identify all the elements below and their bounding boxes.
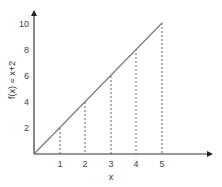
- y-tick-label: 2: [24, 123, 29, 133]
- x-tick-label: 5: [159, 159, 164, 169]
- x-tick-label: 3: [108, 159, 113, 169]
- y-tick-label: 4: [24, 97, 29, 107]
- y-axis-arrow-icon: [31, 10, 37, 16]
- drop-lines: [60, 23, 162, 154]
- x-tick-label: 2: [82, 159, 87, 169]
- y-tick-label: 6: [24, 71, 29, 81]
- x-tick-label: 4: [133, 159, 138, 169]
- x-tick-label: 1: [57, 159, 62, 169]
- function-line: [34, 23, 162, 154]
- x-axis-label: x: [109, 172, 114, 182]
- x-axis-arrow-icon: [207, 151, 213, 157]
- y-tick-label: 10: [19, 19, 29, 29]
- y-axis-label: f(x) = x+2: [7, 61, 17, 99]
- y-tick-label: 8: [24, 45, 29, 55]
- chart: 1 2 3 4 5 2 4 6 8 10 x f(x) = x+2: [0, 0, 222, 187]
